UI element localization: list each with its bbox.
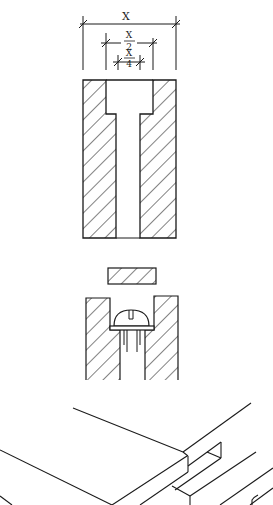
dimension-quarter-denominator: 4 [126, 59, 132, 69]
plug [108, 268, 156, 284]
dimension-quarter-numerator: X [126, 48, 133, 58]
dimension-x-label: X [122, 10, 130, 23]
diagram-canvas: X X 2 X 4 [0, 0, 273, 505]
section-counterbore [83, 80, 176, 238]
section-screw [86, 296, 178, 380]
isometric-joint [0, 403, 273, 505]
dimension-half-numerator: X [126, 30, 133, 40]
